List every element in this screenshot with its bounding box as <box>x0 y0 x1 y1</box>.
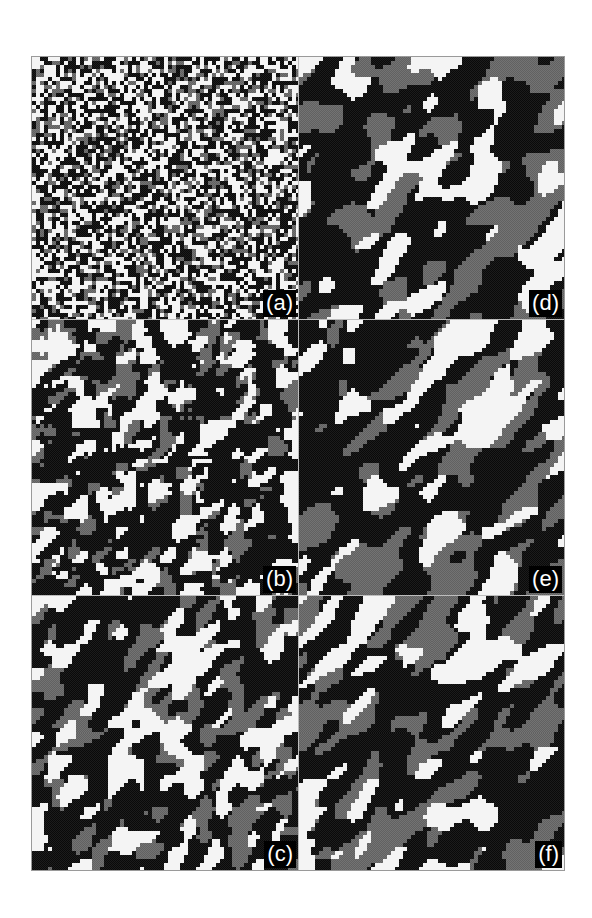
panel-e-label: (e) <box>529 566 562 593</box>
panel-c: (c) <box>32 595 298 870</box>
panel-d: (d) <box>298 57 564 319</box>
figure-grid: (a) (d) (b) (e) (c) (f) <box>32 57 564 870</box>
panel-a: (a) <box>32 57 298 319</box>
panel-a-image <box>32 57 298 319</box>
panel-b-label: (b) <box>263 566 296 593</box>
panel-d-image <box>299 57 564 319</box>
panel-b: (b) <box>32 319 298 595</box>
panel-a-label: (a) <box>263 290 296 317</box>
panel-e: (e) <box>298 319 564 595</box>
panel-f-label: (f) <box>535 841 562 868</box>
panel-f-image <box>299 596 564 870</box>
panel-c-image <box>32 596 298 870</box>
panel-e-image <box>299 320 564 595</box>
panel-d-label: (d) <box>529 290 562 317</box>
panel-f: (f) <box>298 595 564 870</box>
panel-c-label: (c) <box>264 841 296 868</box>
panel-b-image <box>32 320 298 595</box>
